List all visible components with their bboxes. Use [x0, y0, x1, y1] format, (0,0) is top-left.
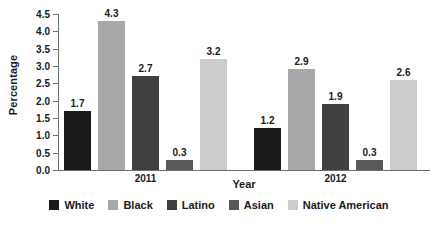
legend-swatch-icon: [108, 200, 118, 210]
bar: 4.3: [98, 21, 125, 170]
y-axis-tick-mark: [53, 101, 58, 102]
x-axis-line: [58, 170, 430, 171]
bar: 2.7: [132, 76, 159, 170]
bar-value-label: 4.3: [105, 8, 119, 19]
legend-label: Native American: [303, 199, 389, 211]
legend-item[interactable]: Native American: [288, 199, 389, 211]
legend-swatch-icon: [288, 200, 298, 210]
bar: 0.3: [166, 160, 193, 170]
bar-chart: Percentage 0.00.51.01.52.02.53.03.54.04.…: [0, 0, 438, 226]
y-axis-tick-label: 4.5: [36, 9, 50, 20]
y-axis-title-label: Percentage: [7, 55, 19, 115]
legend-swatch-icon: [167, 200, 177, 210]
y-axis-tick-label: 3.5: [36, 43, 50, 54]
y-axis-tick-label: 3.0: [36, 61, 50, 72]
bar-value-label: 2.6: [397, 67, 411, 78]
bar-value-label: 2.9: [295, 56, 309, 67]
y-axis-tick-mark: [53, 66, 58, 67]
y-axis-tick-mark: [53, 170, 58, 171]
bar: 2.6: [390, 80, 417, 170]
bar: 0.3: [356, 160, 383, 170]
legend-label: Black: [123, 199, 152, 211]
y-axis-tick-label: 1.0: [36, 130, 50, 141]
y-axis-tick-mark: [53, 135, 58, 136]
y-axis-tick-label: 2.0: [36, 95, 50, 106]
y-axis-tick-label: 2.5: [36, 78, 50, 89]
bar-value-label: 0.3: [173, 147, 187, 158]
bar-value-label: 0.3: [363, 147, 377, 158]
legend-label: Latino: [182, 199, 215, 211]
bar-value-label: 1.9: [329, 91, 343, 102]
bar-value-label: 3.2: [207, 46, 221, 57]
y-axis-tick-mark: [53, 31, 58, 32]
x-axis-title: Year: [58, 178, 430, 190]
legend-item[interactable]: Latino: [167, 199, 215, 211]
bar-value-label: 1.2: [261, 115, 275, 126]
legend-item[interactable]: White: [49, 199, 94, 211]
bar: 1.2: [254, 128, 281, 170]
y-axis-tick-label: 0.5: [36, 147, 50, 158]
legend-label: Asian: [244, 199, 274, 211]
y-axis-tick-mark: [53, 153, 58, 154]
legend-item[interactable]: Asian: [229, 199, 274, 211]
y-axis-tick-mark: [53, 83, 58, 84]
y-axis-tick-mark: [53, 14, 58, 15]
bar: 1.7: [64, 111, 91, 170]
bar: 3.2: [200, 59, 227, 170]
y-axis-title: Percentage: [2, 0, 24, 170]
bar: 1.9: [322, 104, 349, 170]
bar-value-label: 1.7: [71, 98, 85, 109]
y-axis-tick-label: 1.5: [36, 113, 50, 124]
y-axis-tick-mark: [53, 118, 58, 119]
legend: WhiteBlackLatinoAsianNative American: [0, 199, 438, 211]
legend-swatch-icon: [229, 200, 239, 210]
plot-area: 0.00.51.01.52.02.53.03.54.04.5 1.74.32.7…: [58, 14, 430, 170]
y-axis-tick-label: 0.0: [36, 165, 50, 176]
y-axis-line: [58, 14, 59, 170]
legend-item[interactable]: Black: [108, 199, 152, 211]
legend-swatch-icon: [49, 200, 59, 210]
legend-label: White: [64, 199, 94, 211]
y-axis-tick-label: 4.0: [36, 26, 50, 37]
y-axis-tick-mark: [53, 49, 58, 50]
bar: 2.9: [288, 69, 315, 170]
bar-value-label: 2.7: [139, 63, 153, 74]
